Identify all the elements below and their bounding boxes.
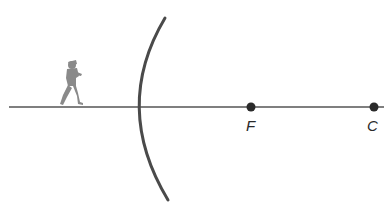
focal-point-label: F bbox=[246, 117, 256, 134]
mirror-diagram: F C bbox=[0, 0, 384, 212]
running-child-icon bbox=[60, 60, 83, 105]
center-of-curvature-dot bbox=[370, 103, 379, 112]
concave-mirror bbox=[139, 18, 168, 200]
focal-point-dot bbox=[247, 103, 256, 112]
center-of-curvature-label: C bbox=[367, 117, 378, 134]
